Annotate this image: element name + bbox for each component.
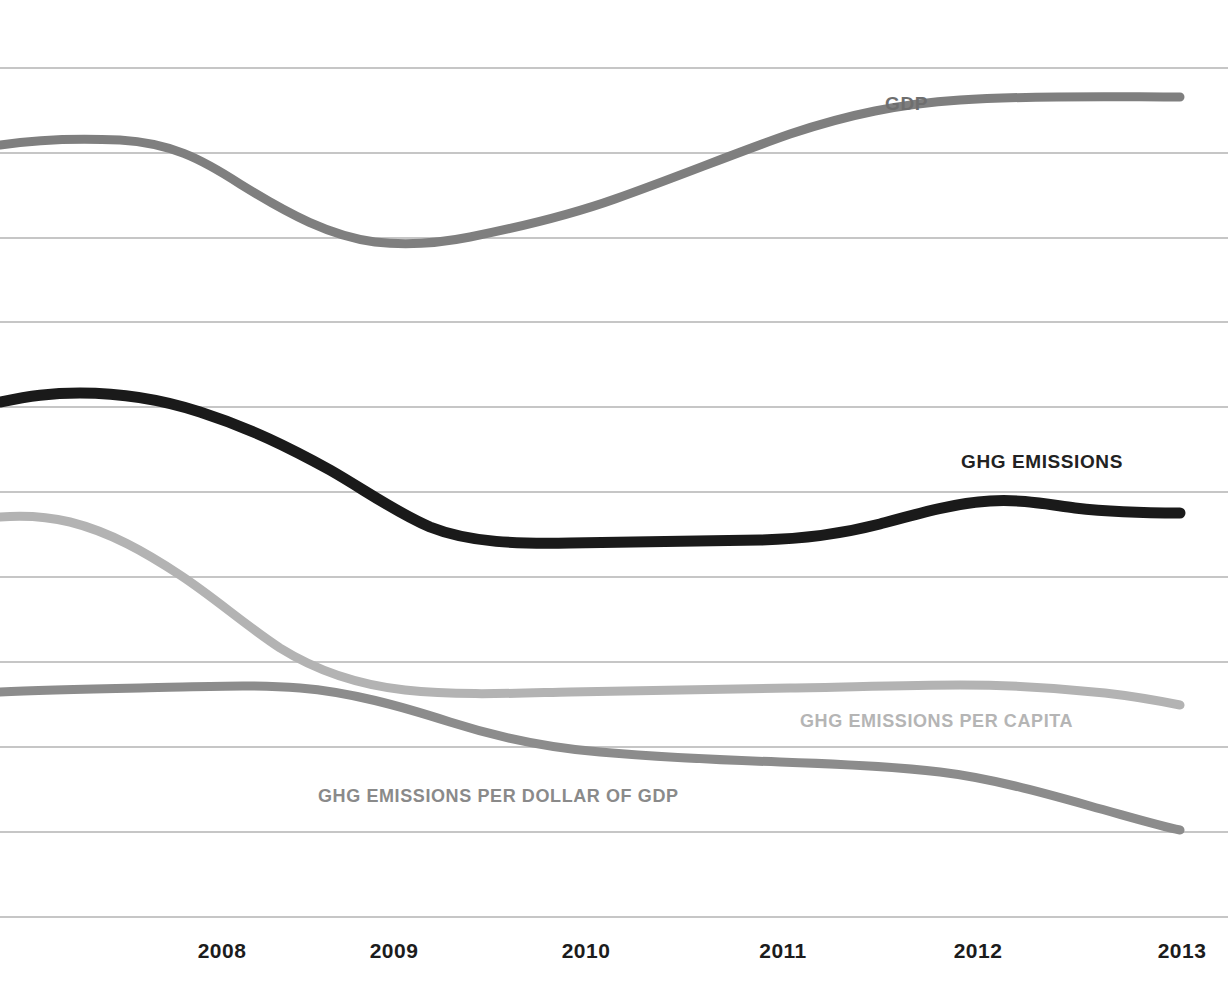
series-label-ghg-emissions-per-capita: GHG EMISSIONS PER CAPITA	[800, 712, 1073, 730]
x-axis-tick-2012: 2012	[954, 940, 1003, 961]
x-axis-tick-2008: 2008	[198, 940, 247, 961]
x-axis-tick-2010: 2010	[562, 940, 611, 961]
series-line-gdp	[0, 97, 1180, 244]
x-axis-tick-2011: 2011	[759, 940, 807, 961]
line-chart: GDP GHG EMISSIONS GHG EMISSIONS PER CAPI…	[0, 0, 1228, 1000]
x-axis-tick-2013: 2013	[1158, 940, 1207, 961]
series-label-ghg-emissions: GHG EMISSIONS	[961, 452, 1123, 471]
series-line-ghg-emissions-per-dollar-of-gdp	[0, 686, 1180, 830]
x-axis-tick-2009: 2009	[370, 940, 419, 961]
chart-plot-area	[0, 0, 1228, 1000]
series-label-ghg-emissions-per-dollar-of-gdp: GHG EMISSIONS PER DOLLAR OF GDP	[318, 787, 679, 805]
series-label-gdp: GDP	[885, 94, 928, 113]
